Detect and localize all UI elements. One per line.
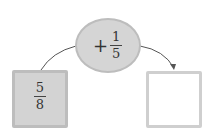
result-answer-box[interactable] — [146, 71, 202, 128]
operation-label: + 1 5 — [93, 30, 122, 61]
start-denominator: 8 — [36, 98, 44, 112]
start-fraction: 5 8 — [34, 81, 46, 112]
operation-denominator: 5 — [112, 47, 120, 61]
left-connector — [41, 46, 76, 70]
operation-fraction: 1 5 — [110, 30, 122, 61]
arrowhead-icon — [170, 64, 176, 70]
operation-sign: + — [93, 37, 108, 55]
right-arrow — [140, 46, 174, 68]
start-numerator: 5 — [36, 81, 44, 95]
operation-numerator: 1 — [112, 30, 120, 44]
